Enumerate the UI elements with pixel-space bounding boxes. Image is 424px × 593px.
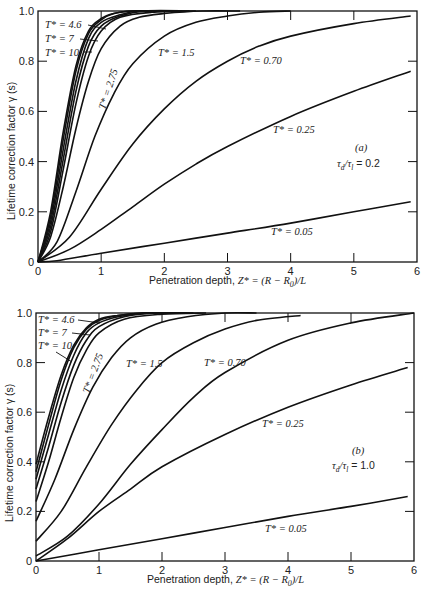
- ratio-label-a: τd/τl = 0.2: [337, 157, 380, 172]
- curve-label-t7-b: T* = 7: [38, 327, 67, 338]
- x-tick-label: 1: [96, 564, 102, 576]
- y-tick-label: 1.0: [17, 307, 32, 319]
- curve-label-t005-a: T* = 0.05: [271, 226, 313, 237]
- y-tick-label: 0: [28, 256, 34, 268]
- curve-label-t005-b: T* = 0.05: [265, 523, 307, 534]
- panel-label-b: (b): [352, 445, 365, 457]
- y-tick-label: 0.8: [17, 357, 32, 369]
- panel-label-a: (a): [355, 142, 368, 154]
- y-tick-label: 1.0: [19, 5, 34, 17]
- curves-b: [36, 313, 414, 561]
- chart-panel-b: 012345600.20.40.60.81.0 Lifetime correct…: [3, 307, 417, 588]
- x-tick-label: 6: [414, 265, 420, 277]
- curve-label-t070-a: T* = 0.70: [240, 55, 283, 66]
- x-tick-label: 5: [348, 564, 354, 576]
- curve-label-t025-b: T* = 0.25: [262, 418, 304, 429]
- x-axis-title-a: Penetration depth, Z* = (R − R0)/L: [149, 274, 306, 289]
- y-tick-label: 0.6: [17, 406, 32, 418]
- x-tick-label: 5: [351, 265, 357, 277]
- y-axis-title-a: Lifetime correction factor γ (s): [5, 82, 17, 220]
- plot-frame-b: [36, 313, 414, 561]
- curve-t0_05: [36, 497, 408, 562]
- curve-label-t10-a: T* = 10: [45, 47, 80, 58]
- curves-a: [38, 11, 411, 262]
- curve-label-t46-b: T* = 4.6: [38, 314, 75, 325]
- curve-label-t15-b: T* = 1.5: [126, 358, 163, 369]
- curve-label-t025-a: T* = 0.25: [273, 124, 315, 135]
- axis-ticks-a: 012345600.20.40.60.81.0: [19, 5, 420, 277]
- curve-label-t070-b: T* = 0.70: [204, 357, 247, 368]
- curve-label-t10-b: T* = 10: [38, 340, 73, 351]
- y-tick-label: 0.2: [17, 505, 32, 517]
- curve-label-t7-a: T* = 7: [45, 33, 74, 44]
- x-tick-label: 0: [33, 564, 39, 576]
- x-tick-label: 6: [411, 564, 417, 576]
- curve-label-t15-a: T* = 1.5: [158, 47, 195, 58]
- ratio-label-b: τd/τl = 1.0: [332, 459, 375, 474]
- chart-panel-a: 012345600.20.40.60.81.0 Lifetime correct…: [5, 5, 420, 289]
- figure: 012345600.20.40.60.81.0 Lifetime correct…: [0, 0, 424, 593]
- x-axis-title-b: Penetration depth, Z* = (R − R0)/L: [147, 573, 304, 588]
- y-tick-label: 0: [26, 555, 32, 567]
- y-axis-title-b: Lifetime correction factor γ (s): [3, 384, 15, 522]
- y-tick-label: 0.2: [19, 206, 34, 218]
- curve-t0_05: [38, 202, 411, 262]
- x-tick-label: 1: [98, 265, 104, 277]
- x-tick-label: 0: [35, 265, 41, 277]
- y-tick-label: 0.8: [19, 55, 34, 67]
- y-tick-label: 0.6: [19, 105, 34, 117]
- y-tick-label: 0.4: [17, 456, 32, 468]
- y-tick-label: 0.4: [19, 156, 34, 168]
- curve-label-t46-a: T* = 4.6: [45, 19, 82, 30]
